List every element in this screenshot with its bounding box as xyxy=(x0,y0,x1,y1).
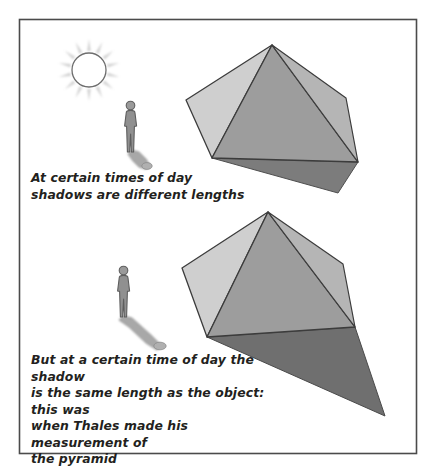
illustration-canvas: At certain times of day shadows are diff… xyxy=(0,0,436,475)
person-head-long xyxy=(119,266,128,275)
sun-disc xyxy=(72,53,106,87)
caption-equal-shadow: But at a certain time of day the shadow … xyxy=(31,352,281,468)
person-head-short xyxy=(126,101,135,110)
caption-short-shadow: At certain times of day shadows are diff… xyxy=(31,170,251,203)
person-shadow-head-long xyxy=(154,342,166,350)
person-shadow-head-short xyxy=(142,163,152,170)
